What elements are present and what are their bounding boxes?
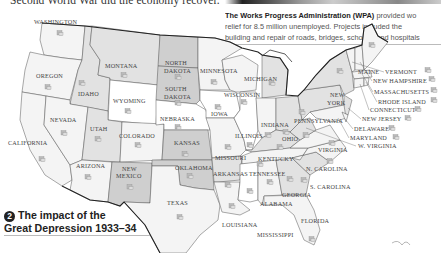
- state-rhode-island[interactable]: [364, 78, 369, 86]
- label-kansas: KANSAS: [174, 139, 200, 146]
- state-connecticut[interactable]: [354, 78, 364, 88]
- label-maine: MAINE: [358, 68, 379, 75]
- label-florida: FLORIDA: [301, 217, 330, 224]
- label-w-virginia: W. VIRGINIA: [358, 142, 397, 149]
- label-pennsylvania: PENNSYLVANIA: [294, 117, 343, 124]
- map-title-line2: Great Depression 1933–34: [4, 222, 137, 234]
- label-missouri: MISSOURI: [215, 154, 246, 161]
- label-new-mexico-1: NEW: [122, 165, 137, 172]
- label-new-hampshire: NEW HAMPSHIRE: [373, 77, 427, 84]
- label-california: CALIFORNIA: [8, 139, 48, 146]
- label-minnesota: MINNESOTA: [200, 67, 238, 74]
- label-colorado: COLORADO: [119, 132, 155, 139]
- label-south-dakota-2: DAKOTA: [164, 93, 191, 100]
- label-wisconsin: WISCONSIN: [224, 91, 261, 98]
- label-north-dakota-1: NORTH: [165, 59, 187, 66]
- label-nebraska: NEBRASKA: [160, 115, 195, 122]
- label-mississippi: MISSISSIPPI: [257, 231, 294, 238]
- label-virginia: VIRGINIA: [318, 146, 348, 153]
- label-delaware: DELAWARE: [354, 125, 389, 132]
- label-south-dakota-1: SOUTH: [165, 85, 187, 92]
- label-louisiana: LOUISIANA: [222, 221, 258, 228]
- label-new-york-1: NEW: [330, 91, 345, 98]
- label-n-carolina: N. CAROLINA: [306, 165, 348, 172]
- label-massachusetts: MASSACHUSETTS: [374, 88, 430, 95]
- label-new-jersey: NEW JERSEY: [362, 115, 402, 122]
- caribbean-islands: [392, 241, 410, 245]
- label-oregon: OREGON: [36, 72, 63, 79]
- label-ohio: OHIO: [282, 135, 299, 142]
- label-tennessee: TENNESSEE: [249, 170, 286, 177]
- label-nevada: NEVADA: [50, 116, 77, 123]
- label-vermont: VERMONT: [385, 68, 417, 75]
- label-connecticut: CONNECTICUT: [370, 106, 416, 113]
- state-mississippi[interactable]: [238, 162, 258, 202]
- label-utah: UTAH: [90, 125, 108, 132]
- label-indiana: INDIANA: [261, 121, 289, 128]
- label-washington: WASHINGTON: [34, 18, 77, 25]
- label-illinois: ILLINOIS: [235, 132, 263, 139]
- label-rhode-island: RHODE ISLAND: [378, 98, 426, 105]
- label-georgia: GEORGIA: [282, 191, 312, 198]
- label-oklahoma: OKLAHOMA: [175, 164, 213, 171]
- label-arkansas: ARKANSAS: [213, 170, 248, 177]
- label-arizona: ARIZONA: [76, 162, 106, 169]
- label-idaho: IDAHO: [78, 90, 99, 97]
- label-maryland: MARYLAND: [350, 134, 387, 141]
- label-new-mexico-2: MEXICO: [116, 172, 142, 179]
- label-kentucky: KENTUCKY: [258, 155, 294, 162]
- label-iowa: IOWA: [211, 110, 228, 117]
- label-montana: MONTANA: [105, 62, 138, 69]
- map-title-line1: The impact of the: [18, 209, 106, 221]
- map-title-divider: [4, 235, 150, 236]
- label-north-dakota-2: DAKOTA: [164, 67, 191, 74]
- map-title: 2The impact of the Great Depression 1933…: [4, 209, 137, 234]
- state-washington[interactable]: [40, 23, 85, 60]
- map-number-badge: 2: [4, 211, 15, 222]
- label-texas: TEXAS: [167, 199, 188, 206]
- label-alabama: ALABAMA: [260, 200, 293, 207]
- label-wyoming: WYOMING: [113, 97, 146, 104]
- state-colorado[interactable]: [120, 122, 164, 162]
- label-s-carolina: S. CAROLINA: [310, 183, 351, 190]
- label-new-york-2: YORK: [327, 99, 346, 106]
